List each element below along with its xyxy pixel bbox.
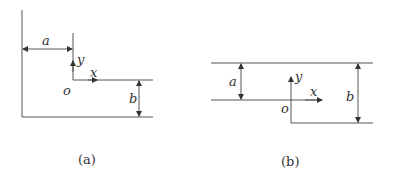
panel-a: a b y x o (a)	[22, 10, 153, 167]
label-b: b	[346, 89, 354, 104]
label-y: y	[294, 69, 303, 84]
label-b: b	[129, 91, 137, 106]
caption-b: (b)	[281, 154, 299, 169]
caption-a: (a)	[78, 152, 96, 167]
label-x: x	[90, 65, 98, 80]
diagram-canvas: a b y x o (a) a b y x o (b)	[0, 0, 393, 183]
label-origin: o	[63, 83, 71, 98]
label-a: a	[229, 74, 237, 89]
panel-b: a b y x o (b)	[211, 63, 373, 169]
label-a: a	[42, 33, 50, 48]
label-x: x	[310, 84, 318, 99]
label-y: y	[76, 52, 85, 67]
label-origin: o	[281, 101, 289, 116]
